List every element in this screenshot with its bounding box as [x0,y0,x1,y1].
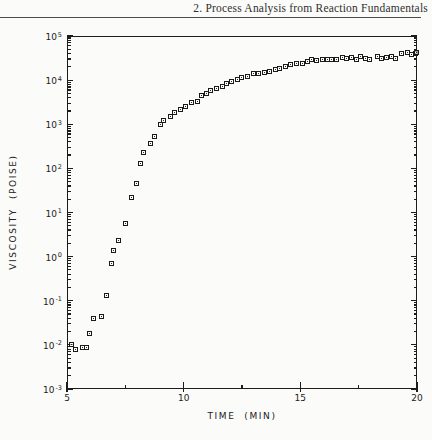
y-minor-tick-right [414,141,418,142]
y-minor-tick-left [67,313,71,314]
y-minor-tick-right [414,93,418,94]
y-minor-tick-left [67,53,71,54]
data-point [148,141,153,146]
y-minor-tick-right [414,181,418,182]
y-minor-tick-left [67,358,71,359]
data-point [84,345,89,350]
y-minor-tick-right [414,375,418,376]
y-minor-tick-right [414,40,418,41]
data-point [104,293,109,298]
y-minor-tick-right [414,258,418,259]
data-point [239,75,244,80]
data-point [367,57,372,62]
y-minor-tick-right [414,199,418,200]
y-major-tick-right [411,256,417,257]
y-minor-tick-left [67,172,71,173]
data-point [141,150,146,155]
y-major-tick-left [67,212,73,213]
y-minor-tick-right [414,128,418,129]
y-minor-tick-left [67,362,71,363]
data-point [262,70,267,75]
y-tick-label: 101 [24,207,62,219]
y-minor-tick-left [67,86,71,87]
x-tick-label: 5 [52,393,82,403]
y-minor-tick-left [67,126,71,127]
viscosity-vs-time-figure: VISCOSITY (POISE) 10510410310210110010-1… [0,0,432,440]
y-minor-tick-right [414,323,418,324]
data-point [214,86,219,91]
y-major-tick-right [411,35,417,36]
data-point [73,347,78,352]
y-minor-tick-right [414,279,418,280]
y-minor-tick-left [67,93,71,94]
y-minor-tick-left [67,367,71,368]
y-minor-tick-left [67,222,71,223]
y-minor-tick-right [414,229,418,230]
y-minor-tick-left [67,154,71,155]
y-minor-tick-left [67,258,71,259]
x-axis-title: TIME (MIN) [67,411,417,421]
y-minor-tick-left [67,229,71,230]
y-tick-label: 100 [24,251,62,263]
data-point [195,99,200,104]
y-minor-tick-right [414,178,418,179]
y-minor-tick-right [414,302,418,303]
data-point [116,238,121,243]
data-point [208,88,213,93]
y-minor-tick-left [67,214,71,215]
data-point [111,248,116,253]
y-minor-tick-right [414,172,418,173]
y-minor-tick-left [67,40,71,41]
x-major-tick [183,382,184,389]
y-tick-label: 104 [24,74,62,86]
data-point [199,93,204,98]
y-major-tick-right [411,300,417,301]
data-point [245,74,250,79]
y-minor-tick-left [67,170,71,171]
y-minor-tick-right [414,269,418,270]
y-minor-tick-right [414,349,418,350]
y-minor-tick-left [67,216,71,217]
y-axis-title: VISCOSITY (POISE) [8,154,18,269]
y-minor-tick-right [414,313,418,314]
y-minor-tick-right [414,266,418,267]
y-minor-tick-right [414,103,418,104]
data-point [161,118,166,123]
y-minor-tick-left [67,130,71,131]
data-point [288,62,293,67]
y-major-tick-right [411,168,417,169]
x-tick-label: 20 [402,393,432,403]
y-minor-tick-left [67,84,71,85]
y-minor-tick-left [67,49,71,50]
data-point [99,314,104,319]
x-major-tick-nub [183,389,184,392]
y-minor-tick-left [67,351,71,352]
y-minor-tick-left [67,219,71,220]
y-minor-tick-right [414,110,418,111]
y-minor-tick-left [67,191,71,192]
y-minor-tick-left [67,263,71,264]
y-minor-tick-left [67,279,71,280]
y-minor-tick-right [414,137,418,138]
y-major-tick-left [67,388,73,389]
y-minor-tick-left [67,274,71,275]
y-minor-tick-left [67,307,71,308]
data-point [334,57,339,62]
y-minor-tick-right [414,225,418,226]
data-point [283,64,288,69]
data-point [399,51,404,56]
x-major-tick [300,382,301,389]
data-point [134,181,139,186]
y-minor-tick-left [67,287,71,288]
y-minor-tick-right [414,126,418,127]
y-minor-tick-left [67,110,71,111]
y-minor-tick-right [414,133,418,134]
y-minor-tick-left [67,318,71,319]
y-minor-tick-right [414,175,418,176]
y-minor-tick-right [414,307,418,308]
x-minor-tick [358,385,359,389]
x-major-tick-nub [300,389,301,392]
data-point [123,221,128,226]
y-minor-tick-right [414,89,418,90]
y-minor-tick-left [67,37,71,38]
